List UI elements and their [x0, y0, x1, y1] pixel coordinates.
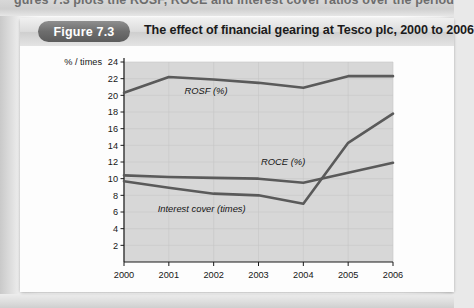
- series-label-rosf: ROSF (%): [185, 85, 228, 96]
- y-tick-label: 2: [113, 241, 118, 251]
- figure-header: Figure 7.3 The effect of financial geari…: [20, 18, 454, 47]
- x-tick-label: 2003: [248, 270, 268, 280]
- y-axis-caption: % / times: [64, 57, 102, 67]
- y-tick-label: 10: [108, 174, 118, 184]
- y-tick-label: 6: [113, 207, 118, 217]
- x-tick-label: 2000: [114, 270, 134, 280]
- x-tick-label: 2006: [383, 270, 403, 280]
- y-tick-label: 14: [108, 141, 118, 151]
- line-chart: 24681012141618202224% / times20002001200…: [20, 46, 454, 292]
- x-tick-label: 2001: [159, 270, 179, 280]
- y-tick-label: 18: [108, 107, 118, 117]
- y-tick-label: 4: [113, 224, 118, 234]
- cut-off-body-text: gures 7.3 plots the ROSF, ROCE and inter…: [14, 0, 454, 9]
- chart-area: 24681012141618202224% / times20002001200…: [20, 46, 454, 292]
- figure-card: Figure 7.3 The effect of financial geari…: [20, 18, 454, 292]
- y-tick-label: 12: [108, 157, 118, 167]
- y-tick-label: 22: [108, 74, 118, 84]
- x-tick-label: 2005: [338, 270, 358, 280]
- y-tick-label: 24: [108, 57, 118, 67]
- x-tick-label: 2002: [203, 270, 223, 280]
- series-label-interest-cover: Interest cover (times): [158, 203, 246, 214]
- y-tick-label: 8: [113, 191, 118, 201]
- figure-title: The effect of financial gearing at Tesco…: [144, 23, 450, 37]
- series-label-roce: ROCE (%): [261, 156, 305, 167]
- y-tick-label: 16: [108, 124, 118, 134]
- figure-number-badge: Figure 7.3: [38, 21, 130, 42]
- x-tick-label: 2004: [293, 270, 313, 280]
- y-tick-label: 20: [108, 91, 118, 101]
- page-bottom-shading: [0, 294, 454, 308]
